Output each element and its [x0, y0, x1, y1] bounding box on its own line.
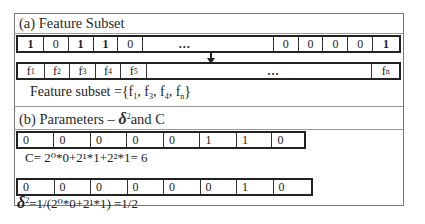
bit-cell: 0: [91, 180, 128, 194]
bit-cell: 0: [164, 180, 201, 194]
bit-cell: 1: [94, 37, 119, 51]
bit-cell: 0: [274, 37, 299, 51]
bit-cell: 1: [237, 180, 274, 194]
ellipsis: …: [147, 64, 372, 78]
bit-cell: 0: [118, 37, 143, 51]
feature-cell: f5: [121, 64, 147, 78]
bit-cell: 1: [200, 133, 236, 147]
c-bit-row: 0 0 0 0 0 1 1 0: [16, 131, 306, 149]
feature-cell: fn: [372, 64, 399, 78]
feature-row: f1 f2 f3 f4 f5 … fn: [16, 62, 401, 80]
bit-cell: 0: [201, 180, 238, 194]
bit-cell: 1: [373, 37, 399, 51]
feature-cell: f1: [18, 64, 45, 78]
bit-cell: 0: [348, 37, 373, 51]
bit-cell: 0: [18, 133, 54, 147]
bit-cell: 0: [274, 180, 311, 194]
bit-cell: 0: [299, 37, 324, 51]
bit-cell: 0: [18, 180, 55, 194]
c-formula: C= 2⁰*0+2¹*1+2²*1= 6: [25, 150, 148, 166]
bit-cell: 0: [127, 133, 163, 147]
section-a-heading: (a) Feature Subset: [19, 15, 125, 32]
bit-cell: 0: [91, 133, 127, 147]
delta-formula: δ2=1/(2⁰*0+2¹*1) =1/2: [17, 194, 138, 212]
divider: [14, 106, 403, 107]
bit-cell: 0: [55, 180, 92, 194]
bit-cell: 0: [164, 133, 200, 147]
bit-cell: 1: [18, 37, 44, 51]
feature-cell: f2: [45, 64, 71, 78]
bit-cell: 0: [44, 37, 69, 51]
bit-string-row: 1 0 1 1 0 … 0 0 0 0 1: [16, 35, 401, 53]
section-b-heading: (b) Parameters – δ2and C: [19, 110, 165, 128]
feature-subset-formula: Feature subset ={f1, f3, f4, fn}: [30, 84, 191, 101]
divider: [14, 33, 403, 34]
ellipsis: …: [143, 37, 274, 51]
bit-cell: 1: [69, 37, 94, 51]
divider: [14, 129, 403, 130]
bit-cell: 0: [323, 37, 348, 51]
feature-cell: f4: [96, 64, 122, 78]
bit-cell: 1: [237, 133, 273, 147]
bit-cell: 0: [54, 133, 90, 147]
bit-cell: 0: [128, 180, 165, 194]
feature-cell: f3: [70, 64, 96, 78]
bit-cell: 0: [272, 133, 304, 147]
